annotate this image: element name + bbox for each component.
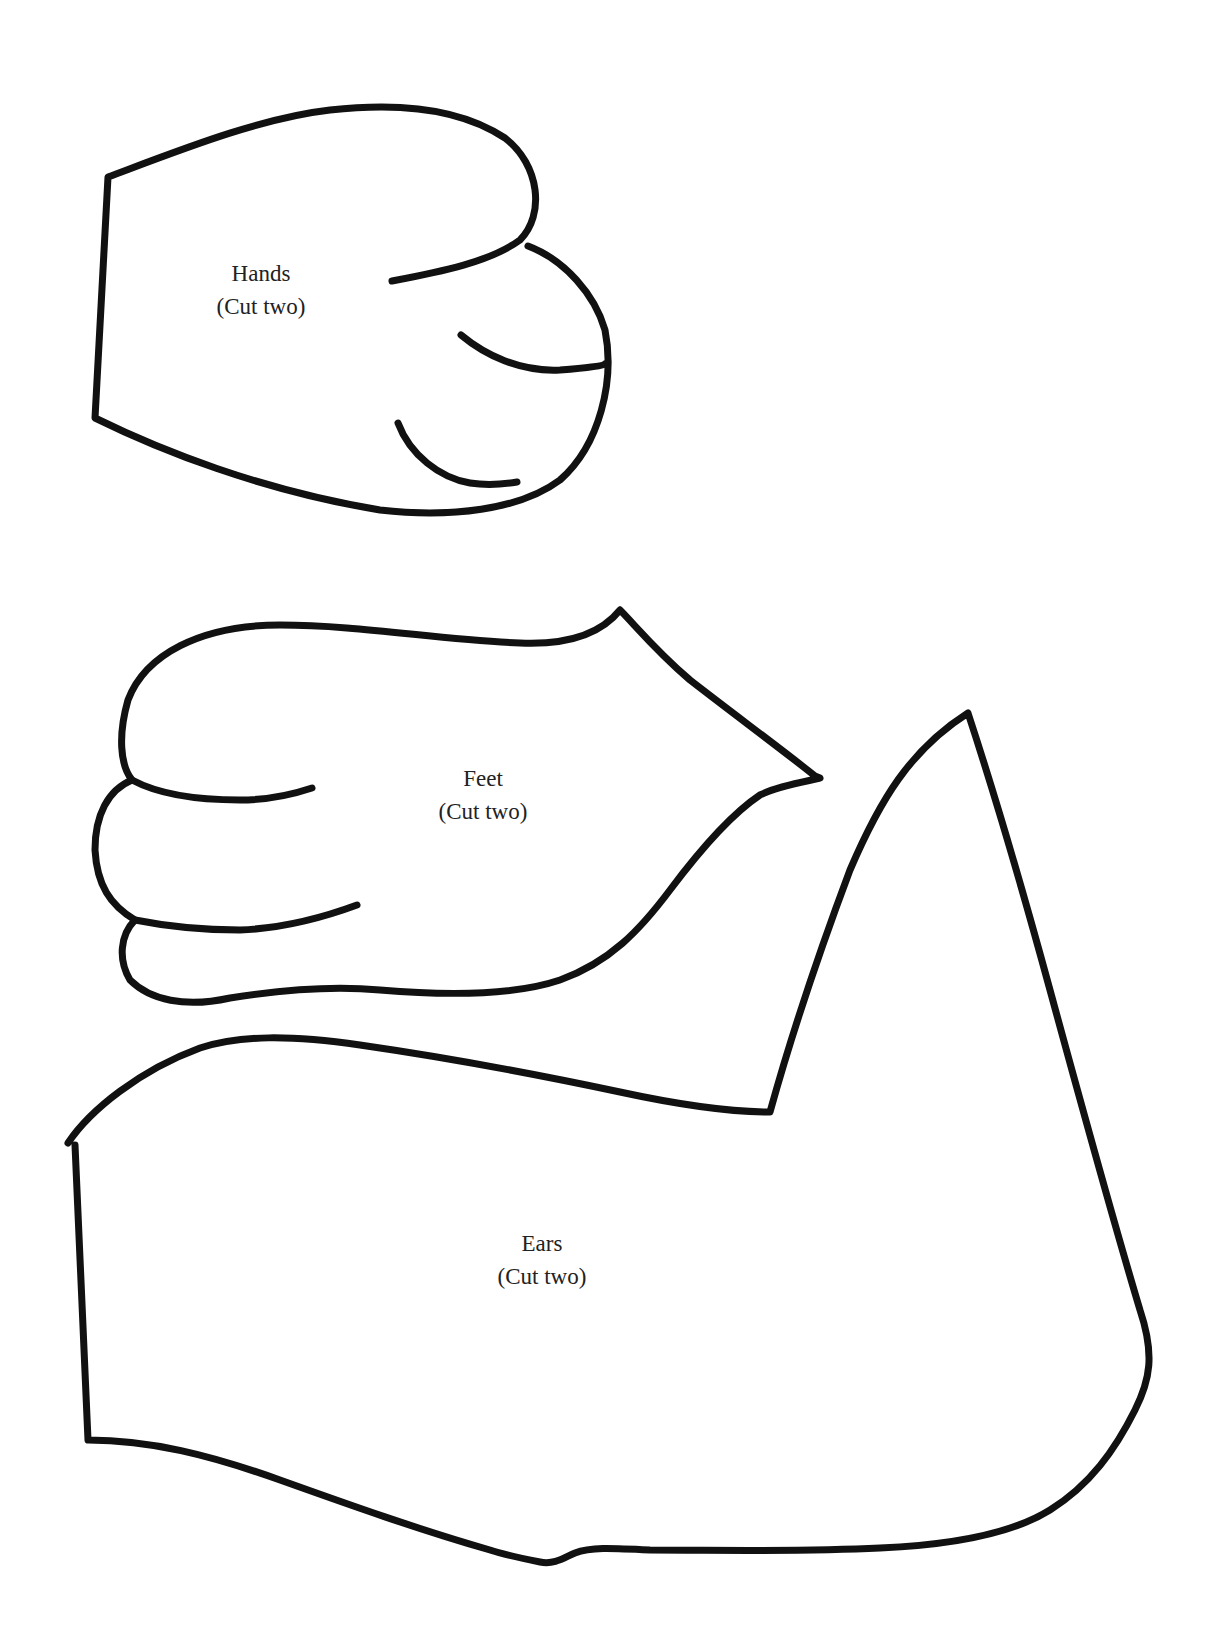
ears-body-outline: [68, 713, 1149, 1563]
ears-label: Ears (Cut two): [442, 1227, 642, 1293]
ears-outline: [68, 713, 1149, 1563]
feet-label-name: Feet: [383, 762, 583, 795]
feet-toe-line-1: [132, 780, 312, 800]
feet-label-instruction: (Cut two): [383, 795, 583, 828]
hands-finger-line-2: [398, 423, 517, 485]
feet-toe-line-2: [135, 905, 357, 930]
hands-label-instruction: (Cut two): [161, 290, 361, 323]
hands-label-name: Hands: [161, 257, 361, 290]
ears-label-instruction: (Cut two): [442, 1260, 642, 1293]
pattern-outlines: [0, 0, 1228, 1644]
hands-label: Hands (Cut two): [161, 257, 361, 323]
hands-finger-line-1: [461, 335, 605, 370]
ears-label-name: Ears: [442, 1227, 642, 1260]
feet-label: Feet (Cut two): [383, 762, 583, 828]
